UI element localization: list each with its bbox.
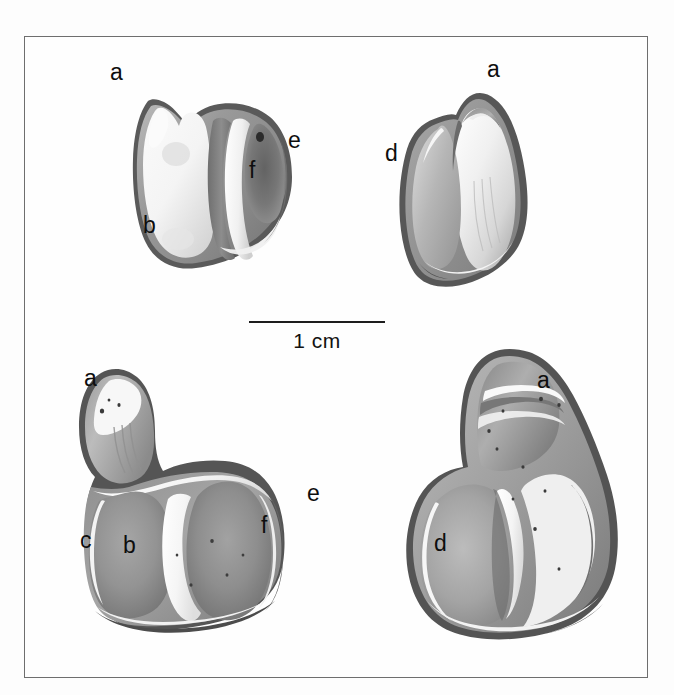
specimen-lower-left: [57, 349, 317, 639]
specimen-upper-left: [114, 77, 304, 277]
label-ur-d: d: [385, 142, 398, 165]
lobe-f: [186, 481, 271, 620]
label-lr-a: a: [537, 369, 550, 392]
label-lr-d: d: [434, 532, 447, 555]
wear-patch-lower: [162, 228, 194, 250]
label-ul-a: a: [110, 61, 123, 84]
scale-bar-label: 1 cm: [249, 329, 385, 353]
label-ll-c: c: [80, 529, 92, 552]
label-ul-e: e: [288, 129, 301, 152]
label-ll-e: e: [307, 482, 320, 505]
figure-root: 1 cm a b e f a d a c b e f a d: [0, 0, 674, 695]
label-ll-f: f: [261, 514, 267, 537]
wear-patch-upper: [162, 142, 190, 166]
scale-bar-line: [249, 321, 385, 323]
label-ul-b: b: [143, 214, 156, 237]
plate-frame: 1 cm a b e f a d a c b e f a d: [24, 36, 648, 678]
label-ur-a: a: [487, 58, 500, 81]
specimen-upper-right: [374, 71, 549, 286]
label-ul-f: f: [249, 159, 255, 182]
specimen-lower-right: [393, 339, 643, 649]
label-ll-a: a: [84, 367, 97, 390]
foramen-dot: [256, 132, 264, 142]
label-ll-b: b: [123, 534, 136, 557]
scale-bar: 1 cm: [249, 313, 389, 359]
